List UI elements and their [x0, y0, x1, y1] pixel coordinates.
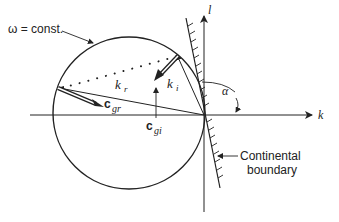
wave-reflection-diagram: ω = const. l k α k r k i c gr c gi Conti…	[0, 0, 339, 222]
alpha-arc-lower	[236, 98, 238, 112]
c-gi-subscript: gi	[154, 125, 162, 136]
c-gi-label: c	[146, 119, 153, 133]
k-i-subscript: i	[176, 83, 179, 93]
alpha-arc	[202, 82, 235, 92]
k-r-vector	[59, 88, 204, 115]
k-axis-label: k	[318, 108, 324, 122]
omega-label: ω = const.	[8, 22, 63, 36]
boundary-label-line2: boundary	[247, 163, 297, 177]
c-gi-vector	[154, 56, 178, 81]
k-r-subscript: r	[124, 84, 128, 94]
l-axis-label: l	[208, 3, 212, 17]
c-gr-subscript: gr	[112, 103, 121, 114]
c-gr-vector	[58, 88, 104, 107]
c-gr-label: c	[104, 97, 111, 111]
k-r-label: k	[115, 77, 121, 92]
omega-pointer	[62, 31, 93, 43]
alpha-label: α	[222, 84, 229, 98]
dispersion-circle	[53, 37, 205, 189]
boundary-label-line1: Continental	[240, 149, 301, 163]
k-i-label: k	[167, 76, 173, 91]
